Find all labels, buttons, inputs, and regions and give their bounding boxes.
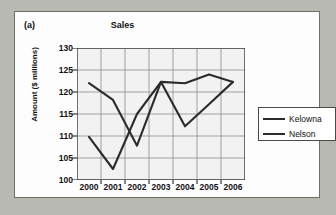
legend-label: Nelson <box>289 129 315 139</box>
y-axis-ticks: 100105110115120125130 <box>43 48 73 180</box>
y-tick-label: 115 <box>47 109 73 119</box>
y-tick-label: 130 <box>47 43 73 53</box>
y-tick-label: 125 <box>47 65 73 75</box>
y-tick-label: 105 <box>47 153 73 163</box>
x-tick-marks <box>77 180 245 185</box>
legend-line-icon <box>263 133 285 135</box>
plot-area <box>77 48 245 180</box>
figure-panel: (a) Sales Amount ($ millions) 1001051101… <box>14 11 320 198</box>
line-chart-svg <box>77 48 245 180</box>
y-tick-label: 120 <box>47 87 73 97</box>
chart-title: Sales <box>15 20 230 30</box>
legend-item[interactable]: Kelowna <box>263 114 322 124</box>
chart-legend: KelownaNelson <box>258 107 336 141</box>
legend-line-icon <box>263 118 285 120</box>
y-tick-marks <box>72 48 77 180</box>
y-tick-label: 100 <box>47 175 73 185</box>
y-axis-label: Amount ($ millions) <box>30 30 39 140</box>
y-tick-label: 110 <box>47 131 73 141</box>
legend-item[interactable]: Nelson <box>263 129 315 139</box>
legend-label: Kelowna <box>289 114 322 124</box>
